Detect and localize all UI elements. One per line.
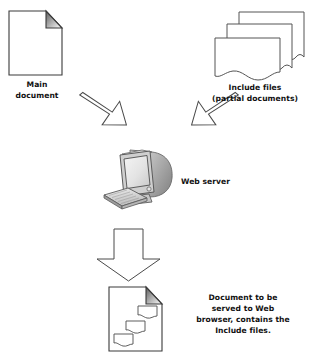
block-arrow-down-right-icon: [79, 87, 126, 132]
page-folded-corner-icon: [9, 11, 62, 75]
label-include-files: Include files (partial documents): [196, 83, 314, 104]
crt-monitor-keyboard-icon: [104, 150, 172, 209]
label-web-server: Web server: [181, 177, 267, 188]
stacked-torn-pages-icon: [215, 12, 304, 80]
diagram-canvas: Main document Include files (partial doc…: [0, 0, 318, 362]
label-output-document: Document to be served to Web browser, co…: [172, 292, 314, 336]
block-arrow-down-icon: [97, 229, 160, 281]
label-main-document: Main document: [6, 80, 68, 101]
page-with-includes-icon: [109, 287, 162, 351]
